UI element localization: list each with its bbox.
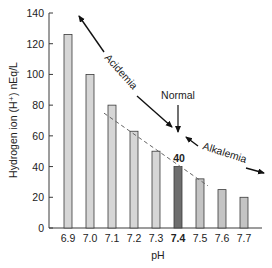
y-tick-label: 0 xyxy=(38,222,44,234)
y-tick-label: 20 xyxy=(32,191,44,203)
x-tick-label: 7.3 xyxy=(149,232,164,244)
highlight-value-label: 40 xyxy=(173,152,185,164)
acidemia-label: Acidemia xyxy=(103,51,141,91)
y-axis-title: Hydrogen ion (H⁺) nEq/L xyxy=(7,62,19,178)
x-tick-label: 7.1 xyxy=(105,232,120,244)
x-tick-label: 7.2 xyxy=(127,232,142,244)
bar-7-6 xyxy=(218,190,226,228)
x-tick-label: 7.7 xyxy=(237,232,252,244)
bar-7-5 xyxy=(196,179,204,228)
annotations: AcidemiaNormal40Alkalemia xyxy=(79,16,264,186)
alkalemia-arrow-right xyxy=(246,168,264,173)
y-tick-label: 40 xyxy=(32,161,44,173)
y-tick-label: 140 xyxy=(26,7,44,19)
y-axis: 020406080100120140 xyxy=(26,7,53,234)
bar-7-4 xyxy=(174,167,182,228)
alkalemia-label: Alkalemia xyxy=(201,139,248,165)
y-tick-label: 80 xyxy=(32,99,44,111)
bars xyxy=(64,35,248,229)
bar-7-0 xyxy=(86,74,94,228)
x-axis-title: pH xyxy=(151,249,164,261)
bar-7-1 xyxy=(108,105,116,228)
bar-7-3 xyxy=(152,151,160,228)
x-tick-label: 7.0 xyxy=(83,232,98,244)
x-tick-label: 7.4 xyxy=(171,232,186,244)
bar-7-2 xyxy=(130,131,138,228)
x-tick-label: 6.9 xyxy=(61,232,76,244)
x-tick-label: 7.5 xyxy=(193,232,208,244)
y-tick-label: 120 xyxy=(26,38,44,50)
normal-label: Normal xyxy=(161,89,195,101)
y-tick-label: 60 xyxy=(32,130,44,142)
hydrogen-ion-vs-ph-chart: 020406080100120140 6.97.07.17.27.37.47.5… xyxy=(0,0,272,268)
acidemia-arrow-up xyxy=(79,16,104,52)
bar-7-7 xyxy=(240,197,248,228)
x-axis: 6.97.07.17.27.37.47.57.67.7 xyxy=(49,228,262,244)
bar-6-9 xyxy=(64,35,72,229)
y-tick-label: 100 xyxy=(26,68,44,80)
x-tick-label: 7.6 xyxy=(215,232,230,244)
alkalemia-arrow-left xyxy=(186,137,198,146)
